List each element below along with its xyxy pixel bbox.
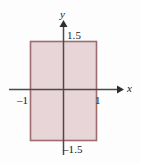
x-axis-arrowhead xyxy=(117,86,124,94)
y-axis-arrowhead xyxy=(60,20,68,27)
x-axis-tick-label-left: –1 xyxy=(17,95,28,106)
plot-canvas xyxy=(0,0,141,163)
coordinate-plane-figure: 1.5 –1.5 –1 1 y x xyxy=(0,0,141,163)
x-axis-tick-label-right: 1 xyxy=(95,95,101,106)
y-axis-name-label: y xyxy=(60,9,65,20)
y-axis-tick-label-upper: 1.5 xyxy=(67,30,81,41)
y-axis-tick-label-lower: –1.5 xyxy=(63,144,83,155)
x-axis-name-label: x xyxy=(127,83,132,94)
